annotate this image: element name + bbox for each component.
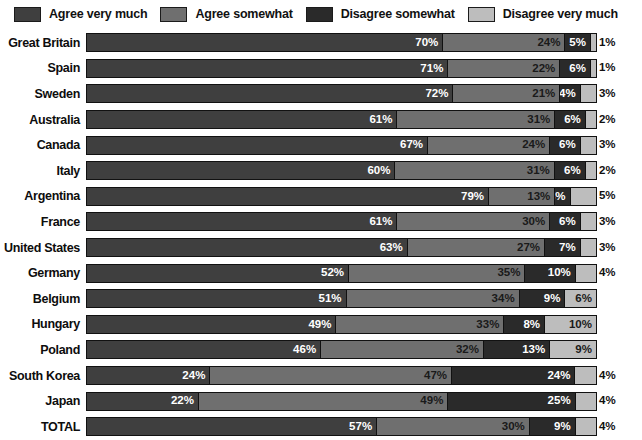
- segment-value-label-outside: 2%: [599, 114, 616, 126]
- segment-value-label-outside: 3%: [599, 139, 616, 151]
- stacked-bar[interactable]: 22%49%25%4%: [86, 392, 597, 411]
- bar-segment[interactable]: 3%: [581, 213, 596, 230]
- bar-segment[interactable]: 51%: [87, 290, 347, 307]
- bar-segment[interactable]: 31%: [397, 111, 555, 128]
- bar-segment[interactable]: 6%: [550, 137, 581, 154]
- bar-segment[interactable]: 4%: [576, 418, 596, 435]
- bar-segment[interactable]: 6%: [555, 162, 586, 179]
- stacked-bar[interactable]: 46%32%13%9%: [86, 340, 597, 359]
- stacked-bar[interactable]: 49%33%8%10%: [86, 315, 597, 334]
- bar-segment[interactable]: 60%: [87, 162, 395, 179]
- stacked-bar[interactable]: 51%34%9%6%: [86, 289, 597, 308]
- bar-segment[interactable]: 70%: [87, 34, 443, 51]
- bar-segment[interactable]: 1%: [591, 60, 596, 77]
- stacked-bar[interactable]: 24%47%24%4%: [86, 366, 597, 385]
- bar-segment[interactable]: 2%: [586, 162, 596, 179]
- bar-segment[interactable]: 8%: [504, 316, 545, 333]
- bar-segment[interactable]: 71%: [87, 60, 448, 77]
- bar-segment[interactable]: 61%: [87, 111, 397, 128]
- bar-segment[interactable]: 1%: [591, 34, 596, 51]
- segment-value-label: 49%: [308, 319, 335, 331]
- bar-segment[interactable]: 4%: [575, 367, 596, 384]
- bar-segment[interactable]: 24%: [87, 367, 210, 384]
- bar-segment[interactable]: 4%: [576, 393, 596, 410]
- bar-segment[interactable]: 6%: [560, 60, 591, 77]
- segment-value-label: 57%: [349, 421, 376, 433]
- stacked-bar[interactable]: 79%13%3%5%: [86, 187, 597, 206]
- bar-segment[interactable]: 49%: [87, 316, 336, 333]
- bar-segment[interactable]: 79%: [87, 188, 489, 205]
- stacked-bar[interactable]: 63%27%7%3%: [86, 238, 597, 257]
- segment-value-label: 31%: [527, 114, 554, 126]
- bar-segment[interactable]: 24%: [452, 367, 575, 384]
- stacked-bar[interactable]: 60%31%6%2%: [86, 161, 597, 180]
- segment-value-label: 9%: [575, 344, 596, 356]
- legend-item[interactable]: Agree somewhat: [160, 7, 292, 22]
- bar-segment[interactable]: 9%: [520, 290, 566, 307]
- bar-segment[interactable]: 7%: [545, 239, 581, 256]
- stacked-bar[interactable]: 61%31%6%2%: [86, 110, 597, 129]
- bar-segment[interactable]: 27%: [408, 239, 545, 256]
- bar-segment[interactable]: 61%: [87, 213, 397, 230]
- bar-segment[interactable]: 34%: [347, 290, 520, 307]
- stacked-bar[interactable]: 61%30%6%3%: [86, 212, 597, 231]
- bar-container: 60%31%6%2%: [86, 158, 642, 184]
- bar-segment[interactable]: 9%: [530, 418, 576, 435]
- bar-segment[interactable]: 63%: [87, 239, 408, 256]
- bar-segment[interactable]: 57%: [87, 418, 377, 435]
- bar-segment[interactable]: 22%: [448, 60, 560, 77]
- bar-segment[interactable]: 30%: [397, 213, 550, 230]
- bar-segment[interactable]: 49%: [199, 393, 448, 410]
- segment-value-label-outside: 3%: [599, 242, 616, 254]
- bar-segment[interactable]: 47%: [210, 367, 452, 384]
- bar-segment[interactable]: 30%: [377, 418, 530, 435]
- bar-segment[interactable]: 6%: [555, 111, 586, 128]
- bar-segment[interactable]: 46%: [87, 341, 321, 358]
- bar-segment[interactable]: 3%: [581, 85, 596, 102]
- segment-value-label: 30%: [502, 421, 529, 433]
- segment-value-label: 24%: [537, 37, 564, 49]
- bar-segment[interactable]: 35%: [349, 265, 525, 282]
- bar-segment[interactable]: 10%: [545, 316, 596, 333]
- bar-segment[interactable]: 10%: [525, 265, 575, 282]
- segment-value-label: 30%: [522, 216, 549, 228]
- bar-segment[interactable]: 4%: [560, 85, 580, 102]
- bar-segment[interactable]: 9%: [550, 341, 596, 358]
- bar-segment[interactable]: 67%: [87, 137, 428, 154]
- bar-segment[interactable]: 52%: [87, 265, 349, 282]
- bar-segment[interactable]: 4%: [576, 265, 596, 282]
- bar-segment[interactable]: 24%: [443, 34, 565, 51]
- bar-segment[interactable]: 31%: [395, 162, 554, 179]
- stacked-bar[interactable]: 70%24%5%1%: [86, 33, 597, 52]
- segment-value-label: 9%: [554, 421, 575, 433]
- legend-item[interactable]: Agree very much: [14, 7, 147, 22]
- bar-segment[interactable]: 2%: [586, 111, 596, 128]
- bar-segment[interactable]: 13%: [489, 188, 555, 205]
- segment-value-label: 71%: [420, 63, 447, 75]
- stacked-bar[interactable]: 71%22%6%1%: [86, 59, 597, 78]
- bar-container: 79%13%3%5%: [86, 184, 642, 210]
- bar-segment[interactable]: 21%: [453, 85, 560, 102]
- stacked-bar[interactable]: 67%24%6%3%: [86, 136, 597, 155]
- stacked-bar[interactable]: 52%35%10%4%: [86, 264, 597, 283]
- legend-item[interactable]: Disagree somewhat: [306, 7, 455, 22]
- bar-segment[interactable]: 3%: [581, 137, 596, 154]
- bar-segment[interactable]: 3%: [581, 239, 596, 256]
- legend-item[interactable]: Disagree very much: [468, 7, 618, 22]
- bar-segment[interactable]: 33%: [336, 316, 504, 333]
- bar-segment[interactable]: 6%: [565, 290, 596, 307]
- bar-segment[interactable]: 5%: [565, 34, 590, 51]
- bar-segment[interactable]: 6%: [550, 213, 581, 230]
- bar-segment[interactable]: 3%: [555, 188, 570, 205]
- bar-segment[interactable]: 22%: [87, 393, 199, 410]
- bar-segment[interactable]: 72%: [87, 85, 453, 102]
- chart-legend: Agree very muchAgree somewhatDisagree so…: [0, 0, 642, 28]
- stacked-bar[interactable]: 72%21%4%3%: [86, 84, 597, 103]
- bar-segment[interactable]: 32%: [321, 341, 484, 358]
- bar-container: 49%33%8%10%: [86, 312, 642, 338]
- stacked-bar[interactable]: 57%30%9%4%: [86, 417, 597, 436]
- bar-segment[interactable]: 13%: [484, 341, 550, 358]
- bar-segment[interactable]: 5%: [571, 188, 596, 205]
- bar-segment[interactable]: 24%: [428, 137, 550, 154]
- bar-segment[interactable]: 25%: [448, 393, 575, 410]
